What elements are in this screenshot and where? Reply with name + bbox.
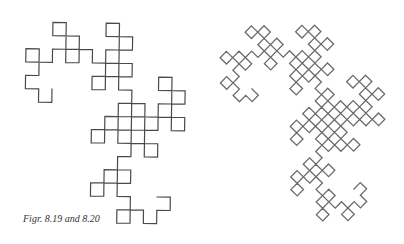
dragon-curve-fig-8-20 [220,25,385,221]
dragon-curve-fig-8-19 [25,22,185,223]
figure-caption: Figr. 8.19 and 8.20 [23,213,100,224]
figure-canvas [0,0,404,244]
